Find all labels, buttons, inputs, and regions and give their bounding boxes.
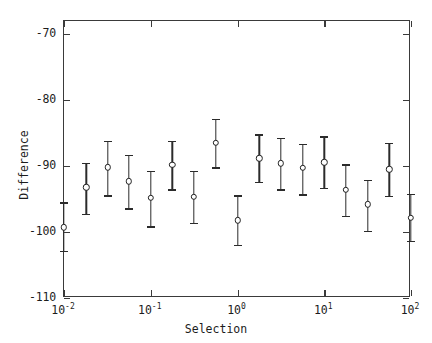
data-point-marker [169, 162, 175, 168]
x-axis-tick [64, 21, 65, 27]
data-point-marker [343, 187, 349, 193]
error-bar-cap [60, 202, 68, 203]
data-point-marker [364, 201, 370, 207]
y-axis-tick-label: -70 [36, 26, 56, 40]
x-axis-tick [151, 290, 152, 296]
data-point-marker [321, 159, 327, 165]
y-axis-title: Difference [17, 100, 31, 230]
y-axis-tick [64, 298, 70, 299]
error-bar-cap [277, 138, 285, 139]
error-bar-cap [234, 245, 242, 246]
data-point-marker [408, 214, 414, 220]
error-bar-cap [104, 195, 112, 196]
data-point-marker [105, 164, 111, 170]
chart-figure: -70-80-90-100-110 10-210-1100101102 Sele… [0, 0, 432, 343]
y-axis-tick-label: -80 [36, 92, 56, 106]
error-bar-cap [385, 143, 393, 144]
x-axis-tick [151, 21, 152, 27]
error-bar-cap [234, 195, 242, 196]
error-bar-cap [407, 241, 415, 242]
data-point-marker [299, 165, 305, 171]
x-axis-tick [238, 290, 239, 296]
error-bar-cap [82, 163, 90, 164]
y-axis-tick [403, 34, 409, 35]
x-axis-tick [238, 21, 239, 27]
x-axis-tick-label: 100 [227, 303, 246, 317]
plot-frame [63, 20, 410, 297]
y-axis-tick [403, 232, 409, 233]
error-bar-cap [125, 208, 133, 209]
error-bar-cap [125, 155, 133, 156]
y-axis-tick [403, 100, 409, 101]
error-bar-cap [168, 189, 176, 190]
y-axis-tick-label: -110 [29, 290, 56, 304]
data-point-marker [191, 194, 197, 200]
data-point-marker [256, 155, 262, 161]
error-bar-cap [299, 194, 307, 195]
data-point-marker [83, 184, 89, 190]
error-bar-cap [168, 141, 176, 142]
error-bar-cap [212, 119, 220, 120]
data-point-marker [61, 224, 67, 230]
x-axis-tick [324, 290, 325, 296]
x-axis-tick [411, 290, 412, 296]
plot-area [64, 21, 409, 296]
error-bar-cap [342, 216, 350, 217]
y-axis-tick [403, 166, 409, 167]
data-point-marker [126, 178, 132, 184]
error-bar-cap [385, 196, 393, 197]
error-bar-cap [320, 188, 328, 189]
y-axis-tick-label: -100 [29, 224, 56, 238]
x-axis-tick [411, 21, 412, 27]
error-bar-cap [255, 134, 263, 135]
data-point-marker [148, 195, 154, 201]
y-axis-tick [64, 100, 70, 101]
error-bar-cap [364, 180, 372, 181]
x-axis-title: Selection [0, 322, 432, 336]
y-axis-tick [64, 166, 70, 167]
x-axis-tick-label: 10-2 [51, 303, 75, 317]
y-axis-tick [403, 298, 409, 299]
error-bar-cap [299, 144, 307, 145]
error-bar-cap [190, 171, 198, 172]
error-bar-cap [147, 226, 155, 227]
error-bar-cap [147, 171, 155, 172]
data-point-marker [213, 140, 219, 146]
error-bar-cap [407, 194, 415, 195]
error-bar-cap [212, 167, 220, 168]
error-bar-cap [255, 182, 263, 183]
error-bar-cap [60, 251, 68, 252]
error-bar-cap [342, 164, 350, 165]
y-axis-tick-label: -90 [36, 158, 56, 172]
error-bar-cap [277, 189, 285, 190]
error-bar-cap [190, 223, 198, 224]
x-axis-tick [64, 290, 65, 296]
x-axis-tick-label: 102 [401, 303, 420, 317]
y-axis-tick [64, 34, 70, 35]
error-bar-cap [82, 214, 90, 215]
data-point-marker [278, 160, 284, 166]
x-axis-tick-label: 10-1 [138, 303, 162, 317]
error-bar-cap [364, 231, 372, 232]
error-bar-cap [320, 136, 328, 137]
data-point-marker [234, 217, 240, 223]
y-axis-tick [64, 232, 70, 233]
x-axis-tick-label: 101 [314, 303, 333, 317]
data-point-marker [386, 166, 392, 172]
x-axis-tick [324, 21, 325, 27]
error-bar-cap [104, 141, 112, 142]
